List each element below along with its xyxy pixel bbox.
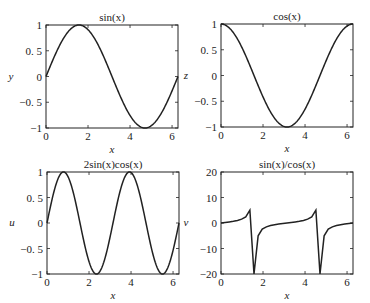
x-axis-label: x: [110, 289, 116, 301]
y-tick-label: 1: [212, 18, 218, 30]
y-axis-label: z: [183, 69, 189, 81]
data-line: [221, 24, 353, 127]
y-tick-label: 0: [212, 70, 218, 82]
y-tick-label: 0: [212, 217, 218, 229]
x-tick-label: 6: [344, 276, 350, 288]
y-tick-label: 1: [37, 19, 43, 31]
subplot-title: sin(x)/cos(x): [259, 158, 316, 171]
subplot-title: 2sin(x)cos(x): [84, 158, 143, 171]
subplot-2: 0246−1−0. 500. 51cos(x)xz: [183, 10, 353, 154]
y-tick-label: −20: [200, 268, 218, 280]
y-tick-label: −0. 5: [20, 243, 43, 255]
x-tick-label: 6: [169, 130, 175, 142]
x-tick-label: 4: [128, 276, 134, 288]
figure: 0246−1−0. 500. 51sin(x)xy0246−1−0. 500. …: [0, 0, 370, 303]
x-tick-label: 2: [85, 130, 91, 142]
x-tick-label: 4: [127, 130, 133, 142]
y-tick-label: −1: [30, 122, 42, 134]
data-line: [46, 25, 178, 128]
x-axis-label: x: [109, 143, 115, 155]
x-tick-label: 0: [43, 130, 49, 142]
y-tick-label: −0. 5: [194, 95, 217, 107]
x-tick-label: 4: [302, 276, 308, 288]
x-tick-label: 0: [218, 129, 224, 141]
x-tick-label: 2: [86, 276, 92, 288]
x-tick-label: 0: [44, 276, 50, 288]
subplot-3: 0246−1−0. 500. 512sin(x)cos(x)xu: [9, 158, 179, 301]
subplot-title: cos(x): [273, 10, 301, 23]
x-axis-label: x: [284, 289, 290, 301]
x-tick-label: 6: [170, 276, 176, 288]
y-tick-label: −1: [205, 121, 217, 133]
x-tick-label: 2: [260, 276, 266, 288]
y-tick-label: −1: [31, 268, 43, 280]
y-axis-label: v: [184, 216, 189, 228]
x-tick-label: 6: [344, 129, 350, 141]
y-tick-label: 20: [206, 166, 218, 178]
y-tick-label: 0. 5: [201, 44, 218, 56]
x-tick-label: 2: [260, 129, 266, 141]
y-tick-label: 0: [37, 71, 43, 83]
y-tick-label: 1: [38, 166, 44, 178]
x-tick-label: 4: [302, 129, 308, 141]
y-tick-label: 0: [38, 217, 44, 229]
y-tick-label: −10: [200, 243, 218, 255]
y-tick-label: 0. 5: [27, 192, 44, 204]
axes-frame: [221, 24, 353, 127]
data-line: [47, 172, 179, 274]
x-tick-label: 0: [218, 276, 224, 288]
y-tick-label: 0. 5: [26, 45, 43, 57]
x-axis-label: x: [284, 142, 290, 154]
subplot-4: 0246−20−1001020sin(x)/cos(x)xv: [184, 158, 353, 301]
subplot-title: sin(x): [99, 11, 125, 24]
subplot-1: 0246−1−0. 500. 51sin(x)xy: [8, 11, 178, 155]
y-axis-label: u: [9, 216, 15, 228]
y-tick-label: 10: [206, 192, 218, 204]
y-tick-label: −0. 5: [19, 96, 42, 108]
y-axis-label: y: [8, 70, 14, 82]
data-line: [221, 210, 353, 274]
